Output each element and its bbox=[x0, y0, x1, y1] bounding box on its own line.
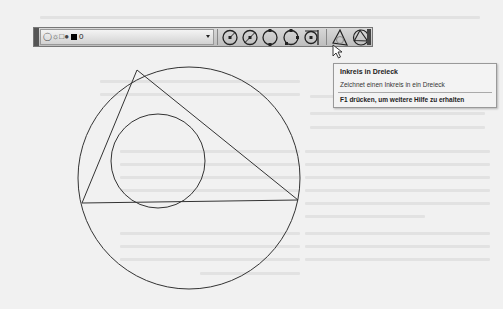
tooltip-divider bbox=[338, 92, 492, 93]
tooltip: Inkreis in Dreieck Zeichnet einen Inkrei… bbox=[333, 63, 497, 108]
circle-2-point-icon bbox=[261, 29, 279, 46]
incircle[interactable] bbox=[111, 114, 205, 208]
toolbar-separator bbox=[217, 29, 218, 45]
toolbar-end-grip[interactable] bbox=[367, 29, 371, 45]
circle-center-diameter-button[interactable] bbox=[241, 29, 259, 46]
lightbulb-icon[interactable]: ◯ bbox=[43, 32, 52, 42]
sun-icon[interactable]: ☼ bbox=[52, 32, 59, 42]
circle-center-diameter-icon bbox=[241, 29, 259, 46]
circle-tan-tan-radius-button[interactable] bbox=[303, 29, 321, 46]
current-layer-name: 0 bbox=[79, 32, 83, 42]
toolbar-separator bbox=[326, 29, 327, 45]
toolbar-grip[interactable] bbox=[34, 28, 39, 46]
tooltip-help: F1 drücken, um weitere Hilfe zu erhalten bbox=[340, 96, 464, 103]
mouse-cursor-icon bbox=[332, 44, 344, 60]
color-swatch-icon[interactable] bbox=[71, 34, 77, 40]
triangle[interactable] bbox=[82, 70, 298, 203]
chevron-down-icon[interactable] bbox=[206, 35, 210, 38]
circle-3-point-icon bbox=[282, 29, 300, 46]
circle-center-radius-button[interactable] bbox=[221, 29, 239, 46]
layer-dropdown[interactable]: ◯☼□●0 bbox=[40, 29, 214, 45]
lock-icon[interactable]: ● bbox=[64, 32, 69, 42]
circle-3-point-button[interactable] bbox=[282, 29, 300, 46]
circumcircle[interactable] bbox=[78, 67, 300, 289]
circle-center-radius-icon bbox=[221, 29, 239, 46]
circle-2-point-button[interactable] bbox=[261, 29, 279, 46]
tooltip-description: Zeichnet einen Inkreis in ein Dreieck bbox=[340, 81, 445, 88]
draw-toolbar: ◯☼□●0 bbox=[33, 27, 373, 47]
circle-tan-tan-radius-icon bbox=[303, 29, 321, 46]
tooltip-title: Inkreis in Dreieck bbox=[340, 68, 398, 75]
